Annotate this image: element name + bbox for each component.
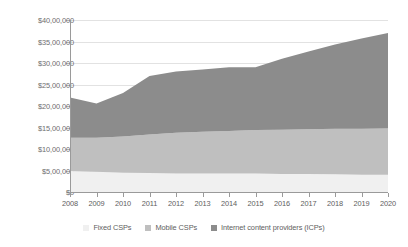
x-tick-label: 2015 (247, 199, 263, 208)
x-tick-mark (97, 193, 98, 197)
x-tick-label: 2014 (221, 199, 237, 208)
y-tick-label: $10,00,000 (38, 145, 74, 154)
legend-label: Internet content providers (ICPs) (221, 223, 325, 232)
x-tick-mark (256, 193, 257, 197)
x-tick-label: 2009 (88, 199, 104, 208)
x-tick-label: 2017 (300, 199, 316, 208)
plot-area (70, 20, 388, 192)
chart-legend: Fixed CSPsMobile CSPsInternet content pr… (0, 223, 408, 232)
x-tick-mark (282, 193, 283, 197)
y-tick-label: $25,00,000 (38, 80, 74, 89)
legend-label: Fixed CSPs (93, 223, 131, 232)
x-tick-label: 2011 (142, 199, 158, 208)
legend-swatch-icon (83, 225, 89, 231)
x-tick-mark (335, 193, 336, 197)
x-tick-mark (362, 193, 363, 197)
y-tick-label: $30,00,000 (38, 59, 74, 68)
x-tick-mark (388, 193, 389, 197)
x-tick-mark (229, 193, 230, 197)
x-tick-mark (309, 193, 310, 197)
y-tick-label: $40,00,000 (38, 16, 74, 25)
x-tick-mark (123, 193, 124, 197)
legend-item[interactable]: Internet content providers (ICPs) (211, 223, 325, 232)
legend-label: Mobile CSPs (155, 223, 197, 232)
x-tick-mark (70, 193, 71, 197)
x-tick-label: 2018 (327, 199, 343, 208)
x-tick-mark (176, 193, 177, 197)
x-tick-label: 2016 (274, 199, 290, 208)
x-tick-mark (150, 193, 151, 197)
y-tick-label: $35,00,000 (38, 37, 74, 46)
area-chart: $0$5,00,000$10,00,000$15,00,000$20,00,00… (0, 0, 408, 247)
x-tick-label: 2012 (168, 199, 184, 208)
area-series-internet-content-providers-icps (70, 33, 388, 138)
stacked-area-series (70, 20, 388, 192)
x-tick-label: 2008 (62, 199, 78, 208)
legend-item[interactable]: Fixed CSPs (83, 223, 131, 232)
legend-item[interactable]: Mobile CSPs (145, 223, 197, 232)
x-tick-label: 2010 (115, 199, 131, 208)
x-tick-mark (203, 193, 204, 197)
y-tick-label: $20,00,000 (38, 102, 74, 111)
legend-swatch-icon (211, 225, 217, 231)
x-tick-label: 2013 (194, 199, 210, 208)
x-tick-label: 2020 (380, 199, 396, 208)
y-tick-label: $15,00,000 (38, 123, 74, 132)
y-axis-line (70, 20, 71, 193)
legend-swatch-icon (145, 225, 151, 231)
x-tick-label: 2019 (353, 199, 369, 208)
